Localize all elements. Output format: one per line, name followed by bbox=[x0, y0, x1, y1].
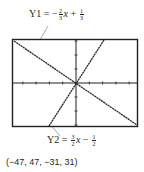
fraction-three-halves: 32 bbox=[71, 134, 75, 147]
fraction-one-half: 12 bbox=[92, 134, 96, 147]
minus-sign: − bbox=[83, 134, 89, 145]
y2-name: Y2 bbox=[47, 134, 59, 145]
equals-sign: = bbox=[62, 134, 68, 145]
variable-x: x bbox=[76, 134, 80, 145]
y2-equation-label: Y2 = 32x − 12 bbox=[47, 134, 97, 147]
viewing-window-settings: (−47, 47, −31, 31) bbox=[6, 157, 78, 167]
